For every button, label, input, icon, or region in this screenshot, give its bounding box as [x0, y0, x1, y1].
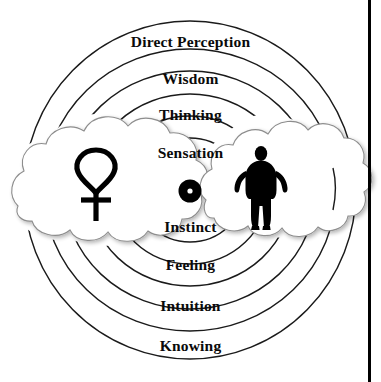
ring-label-sensation: Sensation [0, 145, 381, 161]
point-within-circle-icon [179, 180, 202, 203]
ring-label-intuition: Intuition [0, 298, 381, 314]
ring-label-knowing: Knowing [0, 338, 381, 354]
ring-label-wisdom: Wisdom [0, 71, 381, 87]
ring-label-thinking: Thinking [0, 107, 381, 123]
diagram-vector-layer [0, 0, 381, 382]
ring-label-instinct: Instinct [0, 219, 381, 235]
page-edge-rule [368, 0, 371, 382]
diagram-canvas: Direct Perception Wisdom Thinking Sensat… [0, 0, 381, 382]
ring-label-direct-perception: Direct Perception [0, 34, 381, 50]
ring-label-feeling: Feeling [0, 257, 381, 273]
